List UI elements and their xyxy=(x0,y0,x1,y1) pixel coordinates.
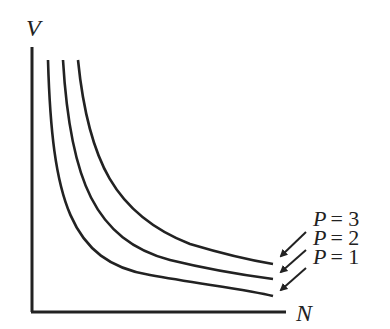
x-axis-label: N xyxy=(295,300,314,326)
isobar-diagram: V N P= 3 P= 2 P= 1 xyxy=(0,0,390,329)
curve-p3 xyxy=(78,60,273,264)
arrow-p1 xyxy=(281,268,306,290)
curve-p2 xyxy=(63,60,273,279)
label-p1: P= 1 xyxy=(312,244,359,269)
y-axis-label: V xyxy=(26,15,43,41)
